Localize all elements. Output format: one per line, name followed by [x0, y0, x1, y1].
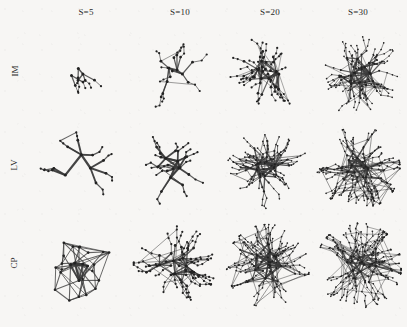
row-label-im: IM: [6, 66, 22, 76]
graph-cell-lv-s10: [127, 122, 222, 214]
graph-cell-cp-s10: [127, 216, 222, 316]
graph-edges: [326, 37, 398, 111]
row-label-lv: LV: [6, 160, 22, 170]
column-header-S5: S=5: [46, 7, 126, 17]
graph-cell-lv-s20: [222, 122, 314, 214]
graph-edges: [134, 226, 214, 299]
row-label-text: LV: [9, 159, 19, 170]
row-label-cp: CP: [6, 258, 22, 268]
network-graph: [30, 28, 125, 120]
graph-cell-im-s5: [30, 28, 125, 120]
graph-cell-im-s30: [312, 28, 405, 120]
graph-cell-lv-s5: [30, 122, 125, 214]
graph-nodes: [70, 67, 102, 94]
network-graph: [30, 122, 125, 214]
graph-edges: [156, 44, 207, 106]
graph-edges: [55, 243, 109, 301]
network-graph: [222, 216, 314, 316]
graph-edges: [146, 137, 203, 204]
network-graph: [312, 122, 405, 214]
network-graph: [312, 28, 405, 120]
network-graph: [30, 216, 125, 316]
network-graph: [312, 216, 405, 316]
row-label-text: CP: [9, 257, 19, 268]
graph-cell-cp-s5: [30, 216, 125, 316]
network-graph: [127, 216, 222, 316]
network-graph: [222, 122, 314, 214]
network-graph: [127, 122, 222, 214]
graph-cell-lv-s30: [312, 122, 405, 214]
graph-cell-im-s20: [222, 28, 314, 120]
network-graph: [222, 28, 314, 120]
network-graph: [127, 28, 222, 120]
column-header-S10: S=10: [140, 7, 220, 17]
column-header-S30: S=30: [318, 7, 398, 17]
column-header-S20: S=20: [230, 7, 310, 17]
row-label-text: IM: [9, 66, 19, 77]
network-figure: S=5S=10S=20S=30 IMLVCP: [0, 0, 407, 327]
graph-cell-im-s10: [127, 28, 222, 120]
graph-edges: [317, 130, 400, 206]
graph-nodes: [40, 131, 114, 195]
graph-cell-cp-s20: [222, 216, 314, 316]
graph-nodes: [155, 43, 208, 108]
graph-edges: [41, 132, 112, 194]
graph-cell-cp-s30: [312, 216, 405, 316]
